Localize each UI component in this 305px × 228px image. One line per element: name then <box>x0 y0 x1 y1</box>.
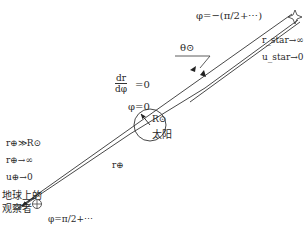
phi-zero-label: φ=0 <box>128 101 150 112</box>
theta-arrow-bottom <box>200 70 206 77</box>
theta-sun-label: θ⊙ <box>180 42 194 53</box>
r-star-label: r_star→∞ <box>262 35 304 46</box>
dr-equals-zero: =0 <box>135 79 150 90</box>
sun-label: 太阳 <box>152 129 172 140</box>
dphi-denominator: dφ <box>115 84 127 94</box>
condition-r-infinity: r⊕→∞ <box>6 155 33 166</box>
r-earth-distance-label: r⊕ <box>112 160 124 171</box>
observer-label-line2: 观察者 <box>2 203 32 214</box>
theta-arrow-top <box>190 66 196 72</box>
dr-dphi-fraction: dr dφ <box>115 73 127 94</box>
theta-arc <box>200 56 210 68</box>
dr-numerator: dr <box>115 73 127 84</box>
u-star-label: u_star→0 <box>262 52 303 63</box>
apparent-ray-line <box>18 14 292 208</box>
condition-r-much-greater: r⊕≫R⊙ <box>6 138 41 149</box>
condition-u-zero: u⊕→0 <box>6 172 33 183</box>
r-sun-label: R⊙ <box>152 114 166 125</box>
phi-earth-label: φ=π/2+⋯ <box>48 214 93 225</box>
observer-label-line1: 地球上的 <box>2 190 42 201</box>
phi-star-label: φ=−(π/2+⋯) <box>196 10 262 21</box>
